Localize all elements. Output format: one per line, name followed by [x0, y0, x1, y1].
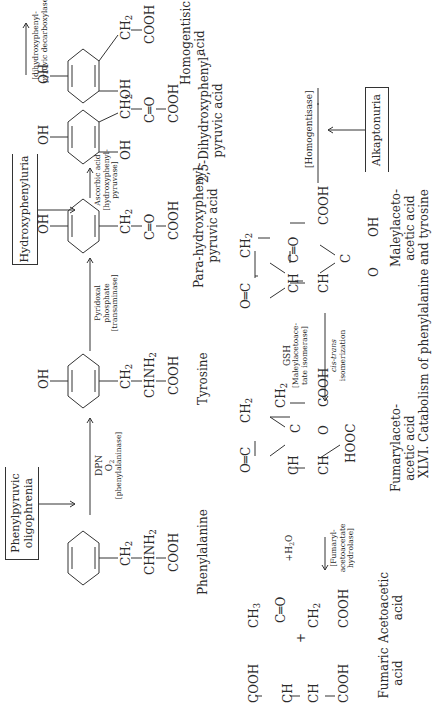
maa-oh: OH — [368, 217, 380, 237]
faa-ch2c: CH — [318, 455, 330, 475]
disorder-label: oligophrenia — [22, 473, 35, 552]
faa-ch2b: CH2 — [275, 383, 287, 408]
hydrolase-enzyme-label: [Fumaryl- acetoacetate hydrolase] — [330, 518, 356, 578]
faa-o: O — [318, 425, 330, 435]
dhpp-co: C═O — [144, 97, 156, 123]
hydroxyphenylpyruvase-label: Ascorbic acid [hydroxyphenyl- pyruvase] — [94, 145, 120, 215]
faa-ch1: CH — [288, 455, 300, 475]
aa-ch2: CH2 — [308, 603, 320, 628]
hga-cooh: COOH — [144, 5, 156, 44]
tyrosine-ch2: CH2 — [120, 364, 132, 389]
textbook-page: Phenylpyruvic oligophrenia Hydroxyphenyl… — [0, 0, 440, 703]
aa-name: Acetoacetic acid — [378, 570, 406, 645]
transaminase-label: Pyridoxal phosphate [transaminase] — [94, 263, 120, 343]
hga-oh-top: OH — [38, 64, 50, 84]
fumaric-name: Fumaric acid — [378, 643, 406, 703]
tyrosine-name: Tyrosine — [197, 352, 209, 405]
php-ch2: CH2 — [120, 209, 132, 234]
hydroxyphenyluria-box: Hydroxyphenyluria — [12, 154, 38, 265]
dhpp-cooh: COOH — [168, 84, 180, 123]
faa-name: Fumarylaceto- acetic acid — [390, 403, 418, 493]
maa-o: O — [368, 267, 380, 277]
maa-ch2b: CH — [318, 273, 330, 293]
faa-ch2: CH2 — [240, 398, 252, 423]
phenylalanine-name: Phenylalanine — [197, 509, 209, 595]
tyrosine-chnh2: CHNH2 — [144, 352, 156, 398]
hga-name: Homogentisic acid — [180, 0, 208, 88]
aa-ch3: CH3 — [248, 603, 260, 628]
maa-cooh: COOH — [318, 186, 330, 225]
homogentisase-label: [Homogentisase] — [304, 93, 314, 168]
disorder-label: Alkaptonuria — [370, 94, 383, 166]
tyrosine-cooh: COOH — [168, 356, 180, 395]
php-oh: OH — [38, 214, 50, 234]
rotated-diagram: Phenylpyruvic oligophrenia Hydroxyphenyl… — [0, 0, 440, 703]
figure-caption: XLVI. Catabolism of phenylalanine and ty… — [418, 189, 430, 478]
isomerization-label: cis-trans isomerization — [330, 313, 347, 398]
phenylpyruvic-oligophrenia-box: Phenylpyruvic oligophrenia — [5, 467, 39, 560]
fumaric-cooh-top: COOH — [248, 664, 260, 703]
aa-co: C═O — [275, 597, 287, 623]
php-cooh: COOH — [168, 201, 180, 240]
php-co: C═O — [144, 214, 156, 240]
phenylalanine-chnh2: CHNH2 — [144, 529, 156, 575]
maa-ch1: CH — [288, 273, 300, 293]
phenylalaninase-label: DPN O2 [phenylalaninase] — [94, 428, 123, 503]
faa-c: C — [290, 424, 302, 433]
fumaric-ch1: CH — [282, 683, 294, 703]
maa-o-top: O═C — [240, 283, 252, 309]
dhpp-oh-top: OH — [38, 125, 50, 145]
dhpp-oh-bottom: OH — [120, 140, 132, 160]
disorder-label: Hydroxyphenyluria — [18, 155, 31, 262]
maa-name: Maleylaceto- acetic acid — [390, 183, 418, 273]
faa-oc: O═C — [240, 447, 252, 473]
maa-ch2: CH2 — [240, 233, 252, 258]
faa-cooh: COOH — [318, 368, 330, 407]
aa-cooh: COOH — [338, 589, 350, 628]
hga-oh-bottom: OH — [120, 79, 132, 99]
maa-c2: C — [340, 254, 352, 263]
hga-ch2: CH2 — [120, 15, 132, 40]
phenylalanine-cooh: COOH — [168, 533, 180, 572]
fumaric-ch2: CH — [308, 683, 320, 703]
fumaric-cooh-bottom: COOH — [338, 664, 350, 703]
plus-sign: + — [295, 633, 307, 643]
maa-c: C═O — [288, 237, 300, 263]
tyrosine-oh: OH — [38, 369, 50, 389]
hydrolase-label: +H2O — [284, 518, 294, 578]
disorder-label: Phenylpyruvic — [9, 473, 22, 552]
alkaptonuria-box: Alkaptonuria — [365, 87, 389, 172]
phenylalanine-ch2: CH2 — [120, 541, 132, 566]
faa-hooc: HOOC — [345, 424, 357, 463]
